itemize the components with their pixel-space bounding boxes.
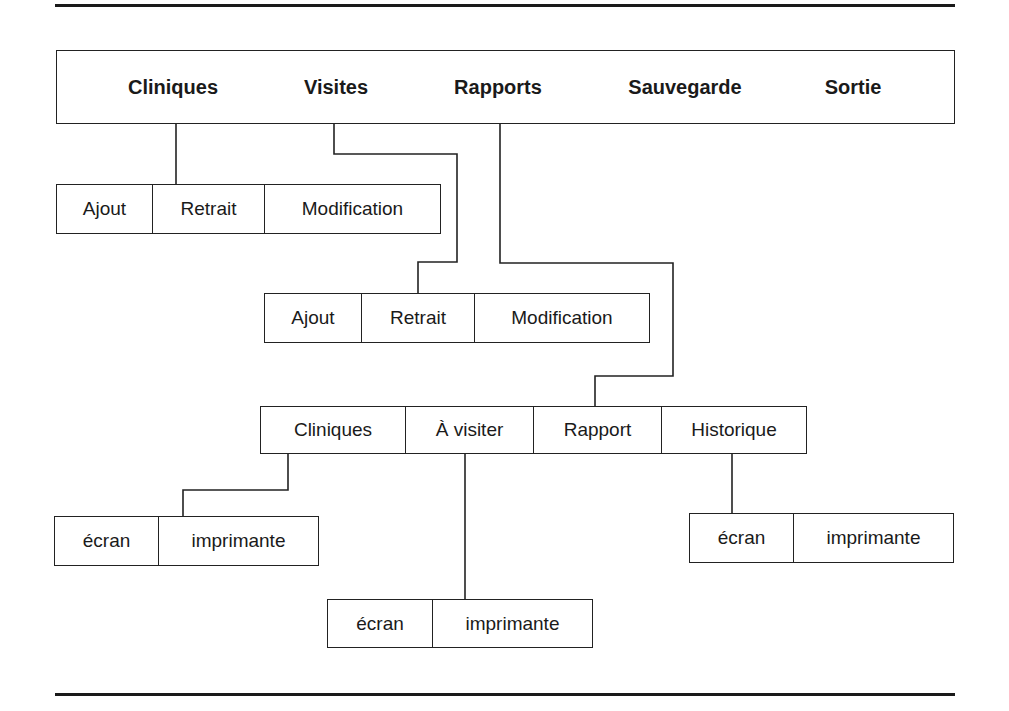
historique-report-output: écran imprimante [689,513,954,563]
menu-item-rapports[interactable]: Rapports [454,51,542,123]
cliniques-retrait[interactable]: Retrait [153,185,265,233]
visites-retrait[interactable]: Retrait [362,294,475,342]
rapports-submenu: Cliniques À visiter Rapport Historique [260,406,807,454]
a-visiter-output-ecran[interactable]: écran [328,600,433,647]
menu-item-cliniques[interactable]: Cliniques [128,51,218,123]
visites-modification[interactable]: Modification [475,294,649,342]
rapports-cliniques[interactable]: Cliniques [261,407,406,453]
cliniques-report-output: écran imprimante [54,516,319,566]
cliniques-submenu: Ajout Retrait Modification [56,184,441,234]
a-visiter-output-imprimante[interactable]: imprimante [433,600,592,647]
menu-item-sauvegarde[interactable]: Sauvegarde [628,51,741,123]
cliniques-output-imprimante[interactable]: imprimante [159,517,318,565]
historique-output-imprimante[interactable]: imprimante [794,514,953,562]
main-menu-bar: Cliniques Visites Rapports Sauvegarde So… [56,50,955,124]
visites-ajout[interactable]: Ajout [265,294,362,342]
menu-item-visites[interactable]: Visites [304,51,368,123]
cliniques-ajout[interactable]: Ajout [57,185,153,233]
historique-output-ecran[interactable]: écran [690,514,794,562]
rapports-historique[interactable]: Historique [662,407,806,453]
rapports-rapport[interactable]: Rapport [534,407,662,453]
menu-item-sortie[interactable]: Sortie [825,51,882,123]
visites-submenu: Ajout Retrait Modification [264,293,650,343]
cliniques-output-ecran[interactable]: écran [55,517,159,565]
cliniques-modification[interactable]: Modification [265,185,440,233]
rapports-a-visiter[interactable]: À visiter [406,407,534,453]
a-visiter-report-output: écran imprimante [327,599,593,648]
